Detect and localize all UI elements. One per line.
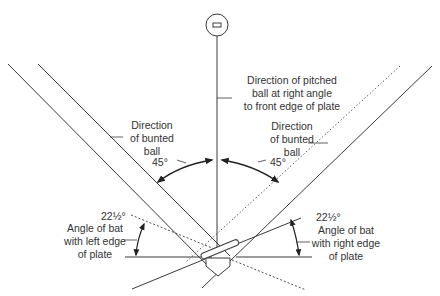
pitched-label-line-3: to front edge of plate [232, 100, 352, 113]
pitched-ball-label: Direction of pitched ball at right angle… [232, 74, 352, 113]
left-bat-line-3: of plate [62, 248, 128, 261]
ball-icon [206, 14, 228, 36]
right-45-label: 45° [270, 156, 286, 169]
left-bat-line-2: with left edge [62, 235, 128, 248]
left-bunt-line-2: of bunted [120, 132, 184, 145]
right-bat-line-3: of plate [310, 250, 382, 263]
right-45-leader-line [258, 160, 266, 162]
right-22-5-label: 22½° [316, 211, 341, 224]
right-bunt-label: Direction of bunted ball [260, 120, 324, 159]
left-bat-solid-line [132, 259, 205, 289]
right-22-5-arc-arrow [291, 220, 299, 255]
left-45-leader-line [177, 160, 186, 163]
left-45-label: 45° [152, 156, 168, 169]
home-plate [206, 258, 230, 276]
bat-icon [200, 239, 239, 260]
right-bat-line-1: Angle of bat [310, 224, 382, 237]
left-bunt-label: Direction of bunted ball [120, 119, 184, 158]
right-bunt-line-1: Direction [260, 120, 324, 133]
right-bat-line-2: with right edge [310, 237, 382, 250]
pitched-label-line-2: ball at right angle [232, 87, 352, 100]
left-bat-dashed-line [131, 215, 222, 252]
left-bunt-line-1: Direction [120, 119, 184, 132]
right-bat-angle-label: Angle of bat with right edge of plate [310, 224, 382, 263]
left-bat-line-1: Angle of bat [62, 222, 128, 235]
left-22-5-arc-arrow [136, 224, 144, 255]
right-bunt-line-2: of bunted [260, 133, 324, 146]
left-bat-angle-label: Angle of bat with left edge of plate [62, 222, 128, 261]
pitched-label-line-1: Direction of pitched [232, 74, 352, 87]
right-bat-solid-line [232, 218, 301, 246]
right-bat-dashed-line [232, 260, 306, 290]
